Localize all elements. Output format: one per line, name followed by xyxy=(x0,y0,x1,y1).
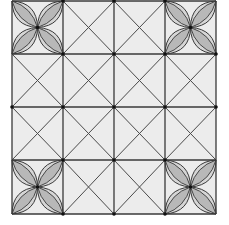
intersection-dot xyxy=(112,158,116,162)
intersection-dot xyxy=(112,105,116,109)
intersection-dot xyxy=(163,212,167,216)
intersection-dot xyxy=(61,105,65,109)
intersection-dot xyxy=(163,158,167,162)
intersection-dot xyxy=(214,105,218,109)
flower-center-dot xyxy=(36,26,40,30)
flower-center-dot xyxy=(189,26,193,30)
intersection-dot xyxy=(10,105,14,109)
intersection-dot xyxy=(112,212,116,216)
intersection-dot xyxy=(163,105,167,109)
intersection-dot xyxy=(214,52,218,56)
flower-center-dot xyxy=(36,185,40,189)
intersection-dot xyxy=(112,52,116,56)
intersection-dot xyxy=(61,158,65,162)
tiling-diagram xyxy=(0,0,229,225)
intersection-dot xyxy=(61,52,65,56)
intersection-dot xyxy=(163,52,167,56)
flower-center-dot xyxy=(189,185,193,189)
intersection-dot xyxy=(61,212,65,216)
